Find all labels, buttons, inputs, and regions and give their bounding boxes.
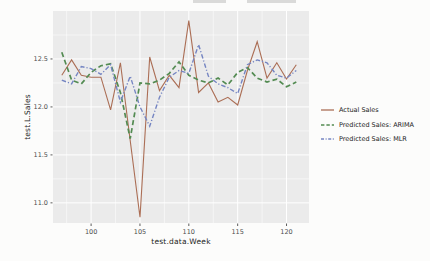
legend-item-mlr: Predicted Sales: MLR — [321, 134, 414, 144]
dashdot-line-key-icon — [321, 135, 334, 143]
legend-label: Predicted Sales: ARIMA — [339, 121, 414, 129]
legend-item-actual-sales: Actual Sales — [321, 105, 414, 115]
x-tick-label: 120 — [280, 228, 292, 236]
solid-line-key-icon — [321, 106, 334, 114]
legend: Actual Sales Predicted Sales: ARIMA Pred… — [321, 105, 414, 149]
x-tick-label: 105 — [134, 228, 146, 236]
x-tick-label: 115 — [231, 228, 243, 236]
chart-figure: 10010511011512011.011.512.012.5 test.L.S… — [0, 0, 430, 261]
y-axis-title: test.L.Sales — [23, 94, 32, 140]
y-tick-label: 12.0 — [34, 103, 48, 111]
x-axis-title: test.data.Week — [151, 237, 210, 246]
y-tick-label: 12.5 — [34, 55, 48, 63]
legend-label: Predicted Sales: MLR — [339, 135, 407, 143]
legend-label: Actual Sales — [339, 106, 379, 114]
y-tick-label: 11.0 — [34, 199, 48, 207]
x-tick-label: 100 — [85, 228, 97, 236]
y-tick-label: 11.5 — [34, 151, 48, 159]
legend-item-arima: Predicted Sales: ARIMA — [321, 120, 414, 130]
dashed-line-key-icon — [321, 121, 334, 129]
x-tick-label: 110 — [183, 228, 195, 236]
